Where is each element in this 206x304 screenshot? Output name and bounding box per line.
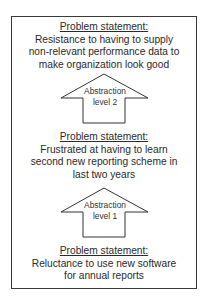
- statement-line: last two years: [11, 169, 197, 182]
- statement-heading: Problem statement:: [11, 245, 197, 258]
- arrow-label-line: level 1: [70, 211, 140, 222]
- statement-line: Reluctance to use new software: [11, 258, 197, 271]
- problem-statement-bottom: Problem statement: Reluctance to use new…: [11, 245, 197, 283]
- arrow-label-line: Abstraction: [70, 200, 140, 211]
- abstraction-level-2-label: Abstraction level 2: [70, 86, 140, 107]
- problem-statement-middle: Problem statement: Frustrated at having …: [11, 131, 197, 181]
- statement-heading: Problem statement:: [11, 131, 197, 144]
- abstraction-level-1-label: Abstraction level 1: [70, 200, 140, 221]
- statement-line: for annual reports: [11, 270, 197, 283]
- statement-line: Frustrated at having to learn: [11, 144, 197, 157]
- arrow-label-line: Abstraction: [70, 86, 140, 97]
- statement-line: second new reporting scheme in: [11, 156, 197, 169]
- arrow-label-line: level 2: [70, 97, 140, 108]
